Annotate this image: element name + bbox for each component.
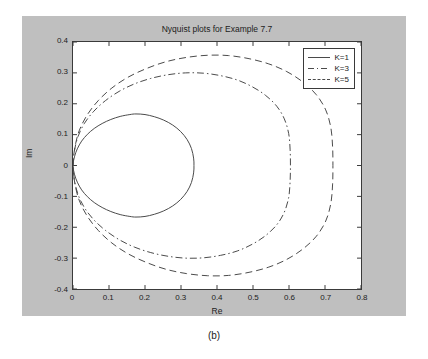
legend-line-sample	[308, 57, 330, 59]
series-curve-k3	[73, 73, 290, 259]
y-axis-label: Im	[24, 149, 34, 158]
y-tick-label: 0.1	[44, 129, 68, 138]
legend-item: K=5	[308, 74, 349, 85]
chart-title: Nyquist plots for Example 7.7	[72, 24, 362, 34]
legend-label: K=5	[335, 75, 349, 84]
x-tick-label: 0.3	[169, 293, 193, 302]
y-tick-label: 0.3	[44, 67, 68, 76]
x-tick-label: 0.4	[205, 293, 229, 302]
legend-line-sample	[308, 79, 330, 81]
y-tick-label: 0.4	[44, 36, 68, 45]
plot-area: K=1K=3K=5	[72, 41, 362, 290]
series-curve-layer	[73, 55, 333, 276]
legend-line-sample	[308, 68, 330, 69]
series-curve-k5	[73, 55, 333, 276]
y-tick-label: -0.1	[44, 192, 68, 201]
x-tick-label: 0.6	[278, 293, 302, 302]
x-tick-label: 0.1	[96, 293, 120, 302]
y-tick-label: 0	[44, 161, 68, 170]
x-tick-label: 0.8	[350, 293, 374, 302]
legend-label: K=1	[335, 53, 349, 62]
x-tick-label: 0	[60, 293, 84, 302]
x-tick-label: 0.2	[133, 293, 157, 302]
figure-caption: (b)	[0, 330, 428, 341]
legend: K=1K=3K=5	[303, 48, 355, 89]
y-tick-label: -0.3	[44, 254, 68, 263]
y-tick-label: 0.2	[44, 98, 68, 107]
figure-panel: Nyquist plots for Example 7.7 Im Re 0.40…	[22, 16, 406, 316]
x-axis-label: Re	[72, 306, 362, 316]
series-curve-k1	[73, 114, 194, 217]
x-tick-label: 0.5	[241, 293, 265, 302]
legend-item: K=3	[308, 63, 349, 74]
legend-item: K=1	[308, 52, 349, 63]
y-tick-label: -0.2	[44, 223, 68, 232]
x-tick-label: 0.7	[314, 293, 338, 302]
legend-label: K=3	[335, 64, 349, 73]
